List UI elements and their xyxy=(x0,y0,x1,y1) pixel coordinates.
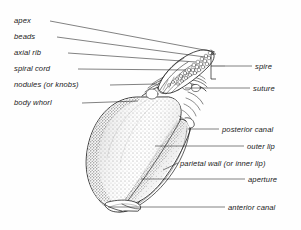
label-suture: suture xyxy=(253,84,275,93)
label-spiral-cord: spiral cord xyxy=(14,64,50,73)
label-nodules: nodules (or knobs) xyxy=(14,80,79,89)
label-aperture: aperture xyxy=(248,175,277,184)
shell-anatomy-figure: apexbeadsaxial ribspiral cordnodules (or… xyxy=(0,0,301,230)
shell-diagram-svg xyxy=(0,0,301,230)
label-apex: apex xyxy=(14,16,31,25)
label-posterior-canal: posterior canal xyxy=(222,125,273,134)
leader-line-axial-rib xyxy=(68,53,196,62)
leader-line-nodules xyxy=(110,84,157,85)
shell-drawing xyxy=(80,50,214,220)
label-beads: beads xyxy=(14,32,35,41)
label-outer-lip: outer lip xyxy=(247,142,275,151)
label-spire: spire xyxy=(255,62,272,71)
label-body-whorl: body whorl xyxy=(14,98,52,107)
label-anterior-canal: anterior canal xyxy=(228,203,275,212)
label-parietal-wall: parietal wall (or inner lip) xyxy=(180,159,266,168)
label-axial-rib: axial rib xyxy=(14,48,41,57)
